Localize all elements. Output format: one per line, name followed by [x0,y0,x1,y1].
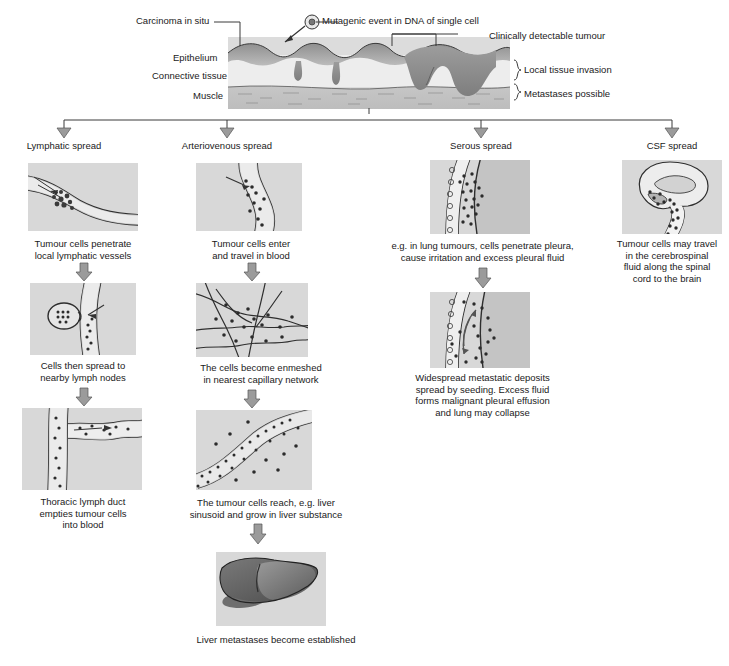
lymph-node-illustration [30,283,136,355]
liver-sinusoid-panel [196,410,312,490]
liver-panel [216,552,326,626]
liver-illustration [216,552,326,626]
caption-lymphatic-step1: Tumour cells penetrate local lymphatic v… [8,238,158,261]
label-connective-tissue: Connective tissue [152,70,227,82]
capillary-network-illustration [196,283,308,357]
thoracic-duct-illustration [22,408,142,490]
thoracic-duct-panel [22,408,142,490]
label-epithelium: Epithelium [173,52,217,64]
lymphatic-vessel-illustration [28,163,138,231]
brain-spinal-cord-illustration [622,160,722,234]
lymph-node-panel [30,283,136,355]
column-header-lymphatic-spread: Lymphatic spread [14,140,114,151]
blood-vessel-panel [196,163,302,231]
label-mutagenic-event: Mutagenic event in DNA of single cell [322,15,479,27]
capillary-network-panel [196,283,308,357]
label-carcinoma-in-situ: Carcinoma in situ [136,15,209,27]
caption-av-step3: The tumour cells reach, e.g. liver sinus… [166,497,366,520]
caption-av-step4: Liver metastases become established [186,634,366,646]
arrow-down-av-1 [243,263,261,281]
caption-lymphatic-step3: Thoracic lymph duct empties tumour cells… [8,496,158,531]
arrow-down-av-2 [243,390,261,408]
caption-serous-step1: e.g. in lung tumours, cells penetrate pl… [345,240,620,263]
label-clinically-detectable-tumour: Clinically detectable tumour [489,30,605,42]
blood-vessel-illustration [196,163,302,231]
caption-av-step2: The cells become enmeshed in nearest cap… [176,362,346,385]
lymphatic-vessel-panel [28,163,138,231]
pleural-effusion-panel [430,292,530,368]
arrow-down-lymph-2 [75,388,93,406]
column-header-serous-spread: Serous spread [431,140,531,151]
caption-csf-step1: Tumour cells may travel in the cerebrosp… [605,238,729,284]
caption-lymphatic-step2: Cells then spread to nearby lymph nodes [8,360,158,383]
bracket-local-tissue-invasion: Local tissue invasion [524,64,612,76]
caption-av-step1: Tumour cells enter and travel in blood [176,238,326,261]
pleura-illustration [430,160,530,234]
pleura-panel [430,160,530,234]
arrow-down-av-3 [249,524,267,544]
liver-sinusoid-illustration [196,410,312,490]
bracket-metastases-possible: Metastases possible [524,88,610,100]
pleural-effusion-illustration [430,292,530,368]
label-muscle: Muscle [193,90,223,102]
brain-spinal-cord-panel [622,160,722,234]
arrow-down-serous-1 [474,268,492,288]
column-header-arteriovenous-spread: Arteriovenous spread [167,140,287,151]
column-header-csf-spread: CSF spread [622,140,722,151]
caption-serous-step2: Widespread metastatic deposits spread by… [390,372,575,418]
arrow-down-lymph-1 [75,263,93,281]
